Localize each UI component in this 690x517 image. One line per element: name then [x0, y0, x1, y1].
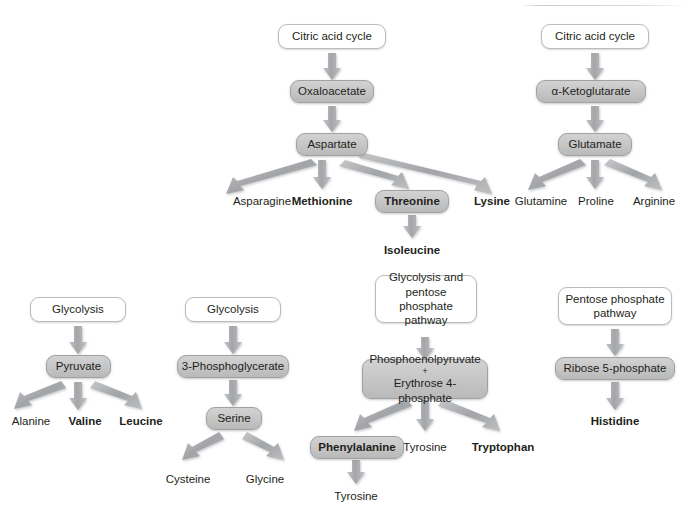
label-proline: Proline	[578, 195, 614, 207]
label-methionine: Methionine	[292, 195, 353, 207]
node-alpha-ketoglutarate: α-Ketoglutarate	[536, 80, 646, 103]
node-oxaloacetate: Oxaloacetate	[290, 80, 374, 103]
pathway-diagram: Citric acid cycle Oxaloacetate Aspartate…	[0, 0, 690, 517]
arrow-glycolysis-to-3pg	[224, 326, 242, 354]
node-glutamate: Glutamate	[558, 133, 632, 156]
arrow-phenylalanine-to-tyrosine	[347, 460, 365, 484]
label-lysine: Lysine	[474, 195, 510, 207]
arrow-ppp-to-ribose5p	[606, 329, 624, 356]
arrow-glutamate-to-glutamine	[528, 159, 586, 190]
top-rule-artifact	[520, 5, 688, 6]
arrow-threonine-to-isoleucine	[403, 215, 421, 238]
node-ribose-5-phosphate: Ribose 5-phosphate	[555, 357, 675, 380]
node-pentose-phosphate-pathway: Pentose phosphate pathway	[558, 287, 672, 325]
node-threonine: Threonine	[375, 190, 449, 213]
node-citric-acid-cycle-glutamate: Citric acid cycle	[541, 24, 649, 49]
node-3-phosphoglycerate: 3-Phosphoglycerate	[177, 355, 289, 378]
label-alanine: Alanine	[12, 415, 50, 427]
arrow-pyruvate-to-valine	[69, 382, 87, 410]
label-asparagine: Asparagine	[233, 195, 291, 207]
node-aspartate: Aspartate	[296, 133, 368, 156]
arrow-oxaloacetate-to-aspartate	[323, 106, 341, 132]
arrow-pyruvate-to-alanine	[14, 381, 66, 409]
arrow-ribose5p-to-histidine	[606, 382, 624, 410]
label-arginine: Arginine	[633, 195, 675, 207]
label-histidine: Histidine	[591, 415, 640, 427]
label-isoleucine: Isoleucine	[384, 244, 440, 256]
arrow-aspartate-to-methionine	[313, 160, 331, 189]
arrow-glutamate-to-proline	[586, 160, 604, 189]
pep-line-1: Phosphoenolpyruvate	[369, 352, 480, 367]
node-serine: Serine	[206, 407, 262, 430]
pep-line-2: Erythrose 4-phosphate	[370, 376, 480, 406]
arrow-aspartate-to-threonine	[339, 160, 409, 189]
arrow-serine-to-cysteine	[182, 432, 224, 460]
node-phenylalanine: Phenylalanine	[310, 436, 404, 459]
label-tryptophan: Tryptophan	[472, 441, 535, 453]
node-glycolysis-and-ppp: Glycolysis and pentose phosphate pathway	[375, 275, 477, 323]
label-tyrosine-from-phenylalanine: Tyrosine	[334, 490, 377, 502]
label-glycine: Glycine	[246, 473, 284, 485]
arrow-pyruvate-to-leucine	[90, 381, 142, 409]
label-glutamine: Glutamine	[515, 195, 567, 207]
node-glycolysis-pyruvate: Glycolysis	[30, 297, 126, 322]
label-leucine: Leucine	[119, 415, 162, 427]
node-citric-acid-cycle-aspartate: Citric acid cycle	[278, 24, 386, 49]
node-pyruvate: Pyruvate	[46, 355, 111, 378]
label-cysteine: Cysteine	[166, 473, 211, 485]
arrow-citrate-to-oxaloacetate	[323, 53, 341, 80]
pep-plus-sign: +	[423, 367, 428, 376]
node-glycolysis-serine: Glycolysis	[185, 297, 281, 322]
arrow-glycolysis-to-pyruvate	[69, 326, 87, 354]
arrow-aspartate-to-lysine	[356, 151, 492, 194]
arrow-aspartate-to-asparagine	[226, 159, 317, 194]
arrow-serine-to-glycine	[242, 432, 284, 460]
arrow-citrate-to-ketoglutarate	[586, 53, 604, 80]
label-tyrosine-from-pep: Tyrosine	[403, 441, 446, 453]
arrow-3pg-to-serine	[224, 380, 242, 406]
node-pep-erythrose4p: Phosphoenolpyruvate + Erythrose 4-phosph…	[362, 359, 488, 399]
arrow-glutamate-to-arginine	[604, 159, 662, 190]
label-valine: Valine	[68, 415, 101, 427]
arrow-ketoglutarate-to-glutamate	[586, 106, 604, 132]
